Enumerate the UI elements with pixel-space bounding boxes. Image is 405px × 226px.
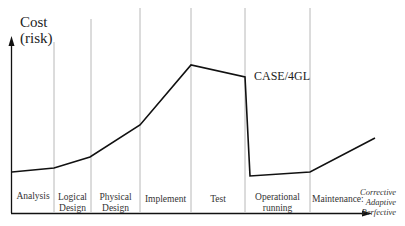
y-axis-arrow-icon [9,36,15,46]
phase-label-maintenance: Maintenance: [312,194,366,205]
phase-label-operational-running: Operational running [245,192,310,214]
phase-label-implement: Implement [140,194,191,205]
y-axis-label-line2: (risk) [20,30,53,46]
maintenance-type-adaptive: Adaptive [360,197,396,207]
maintenance-type-perfective: Perfective [360,207,396,217]
phase-label-physical-design: Physical Design [91,192,140,214]
phase-label-logical-line1: Logical [54,192,91,203]
cost-curve [12,65,375,176]
phase-label-operational-line2: running [245,203,310,214]
phase-label-physical-line1: Physical [91,192,140,203]
maintenance-types: Corrective Adaptive Perfective [360,187,396,217]
phase-label-physical-line2: Design [91,203,140,214]
phase-label-operational-line1: Operational [245,192,310,203]
y-axis-label: Cost (risk) [20,14,53,46]
y-axis-label-line1: Cost [20,14,53,30]
maintenance-type-corrective: Corrective [360,187,396,197]
phase-label-logical-line2: Design [54,203,91,214]
phase-dividers [54,8,310,212]
phase-label-test: Test [191,194,245,205]
case-4gl-annotation: CASE/4GL [254,69,310,84]
phase-label-analysis: Analysis [12,191,54,202]
phase-label-logical-design: Logical Design [54,192,91,214]
